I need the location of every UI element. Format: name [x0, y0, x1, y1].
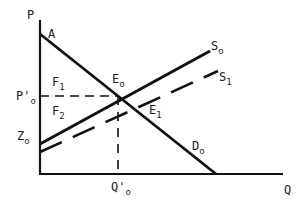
x-axis-label: Q — [284, 184, 291, 196]
f2-label: F2 — [52, 105, 65, 117]
demand-curve-d0 — [40, 34, 216, 174]
z0-label: Zo — [17, 130, 30, 142]
supply-curve-s0 — [40, 51, 210, 144]
s0-label: So — [211, 40, 224, 52]
p0-label: P'o — [16, 90, 36, 102]
d0-label: Do — [192, 140, 205, 152]
s1-label: S1 — [219, 71, 232, 83]
e1-label: E1 — [149, 104, 162, 116]
q0-label: Q'o — [111, 181, 131, 193]
point-a-label: A — [48, 28, 55, 40]
e0-label: Eo — [112, 73, 125, 85]
f1-label: F1 — [52, 76, 65, 88]
supply-demand-diagram — [0, 0, 306, 203]
y-axis-label: P — [27, 9, 34, 21]
